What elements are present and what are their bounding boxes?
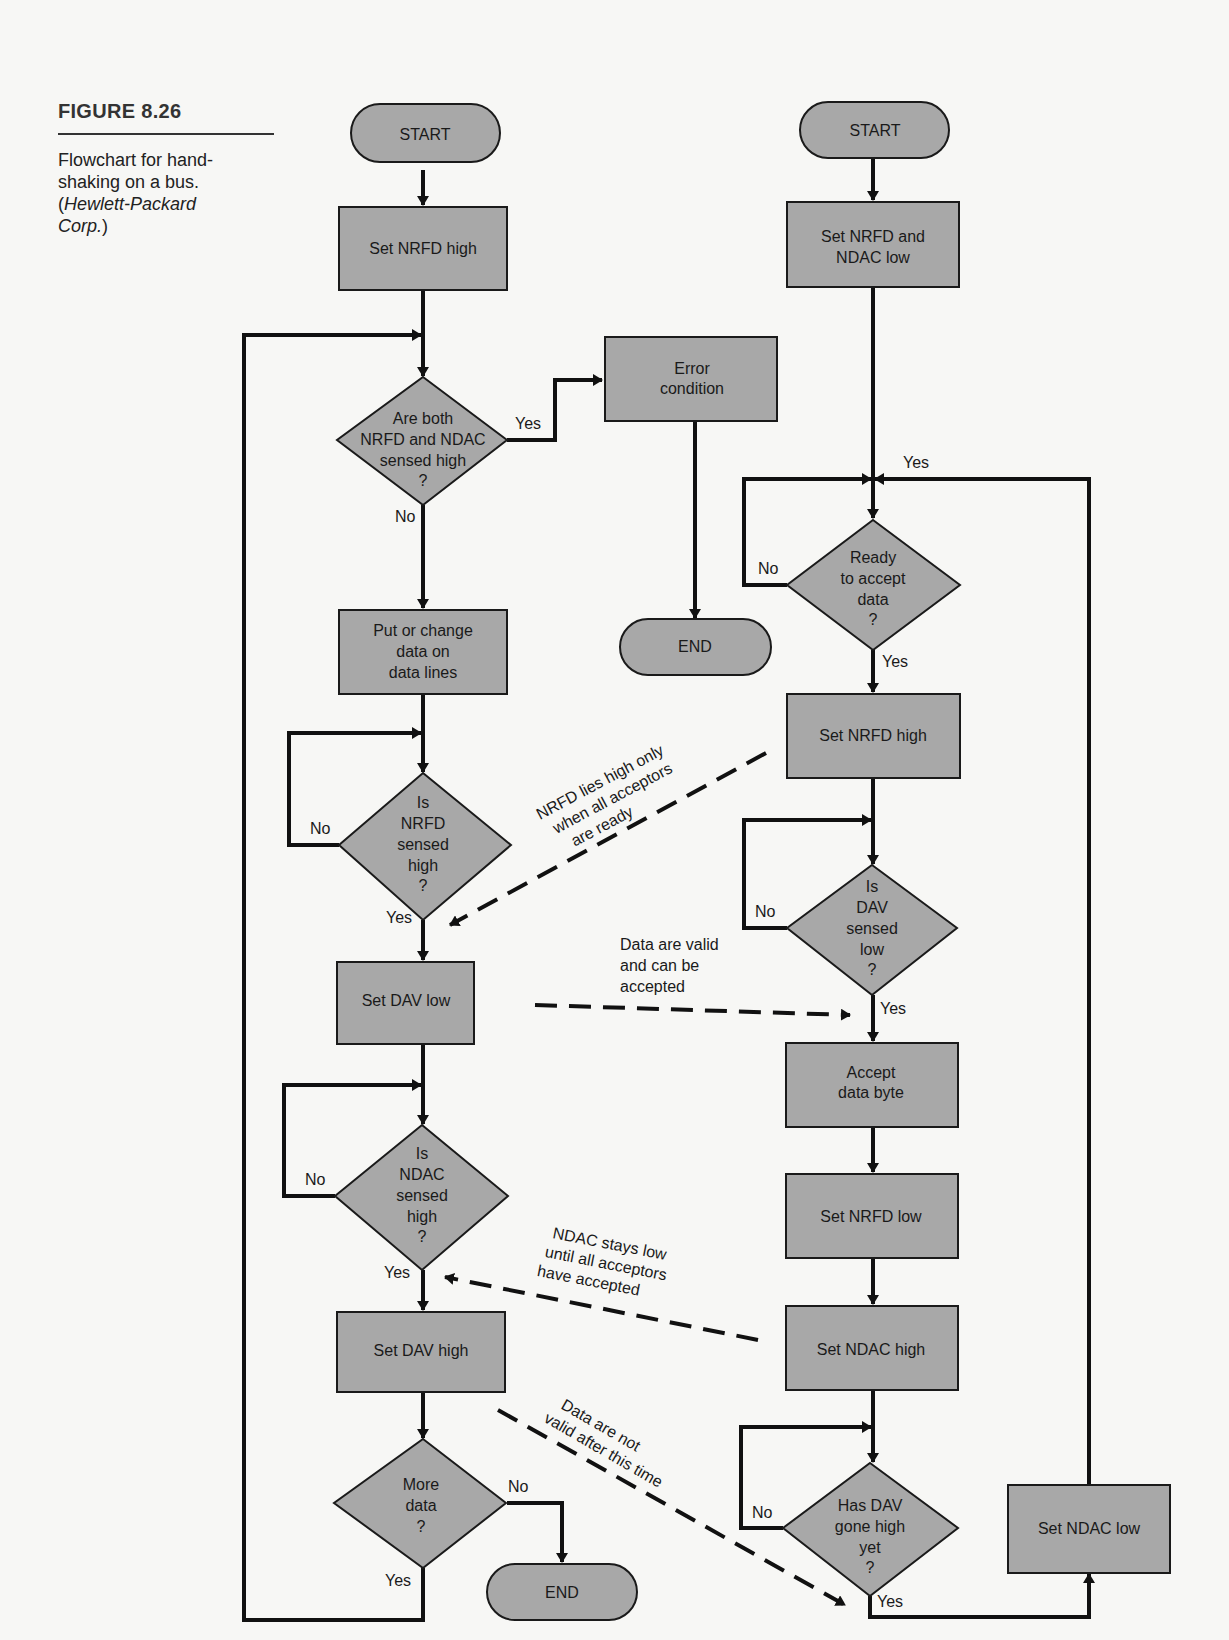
yes-label: Yes (515, 415, 541, 432)
listener-is-dav-low-decision: Is DAV sensed low ? (787, 865, 957, 995)
svg-text:data lines: data lines (389, 664, 458, 681)
svg-text:Set NDAC high: Set NDAC high (817, 1341, 926, 1358)
svg-text:low: low (860, 941, 884, 958)
svg-text:DAV: DAV (856, 899, 888, 916)
yes-label: Yes (903, 454, 929, 471)
note-ndac-low: NDAC stays low until all acceptors have … (536, 1223, 672, 1303)
svg-text:yet: yet (859, 1539, 881, 1556)
svg-text:gone high: gone high (835, 1518, 905, 1535)
svg-text:Has DAV: Has DAV (838, 1497, 903, 1514)
talker-is-nrfd-high-decision: Is NRFD sensed high ? (339, 773, 511, 920)
svg-text:Accept: Accept (847, 1064, 896, 1081)
svg-text:high: high (407, 1208, 437, 1225)
svg-text:Is: Is (417, 794, 429, 811)
yes-label: Yes (384, 1264, 410, 1281)
no-label: No (508, 1478, 529, 1495)
talker-set-dav-low: Set DAV low (337, 962, 474, 1044)
svg-text:NDAC low: NDAC low (836, 249, 910, 266)
talker-set-dav-high: Set DAV high (337, 1312, 505, 1392)
no-label: No (755, 903, 776, 920)
svg-text:high: high (408, 857, 438, 874)
svg-text:NRFD and NDAC: NRFD and NDAC (360, 431, 485, 448)
svg-text:More: More (403, 1476, 440, 1493)
talker-is-ndac-high-decision: Is NDAC sensed high ? (335, 1125, 508, 1270)
talker-end-node: END (487, 1564, 637, 1620)
svg-text:Set DAV low: Set DAV low (362, 992, 451, 1009)
no-label: No (395, 508, 416, 525)
talker-set-nrfd-high: Set NRFD high (339, 207, 507, 290)
svg-text:Ready: Ready (850, 549, 896, 566)
talker-more-data-decision: More data ? (334, 1439, 506, 1568)
yes-label: Yes (882, 653, 908, 670)
listener-set-ndac-low: Set NDAC low (1008, 1485, 1170, 1573)
svg-text:?: ? (419, 472, 428, 489)
error-condition-node: Error condition (605, 337, 777, 421)
svg-text:?: ? (869, 611, 878, 628)
svg-text:?: ? (418, 1228, 427, 1245)
listener-ready-decision: Ready to accept data ? (787, 520, 960, 650)
svg-text:END: END (545, 1584, 579, 1601)
svg-text:START: START (850, 122, 901, 139)
svg-text:?: ? (419, 877, 428, 894)
talker-check-both-decision: Are both NRFD and NDAC sensed high ? (337, 377, 507, 505)
svg-text:START: START (400, 126, 451, 143)
svg-text:sensed: sensed (846, 920, 898, 937)
svg-text:?: ? (417, 1518, 426, 1535)
svg-text:to accept: to accept (841, 570, 906, 587)
svg-text:and can be: and can be (620, 957, 699, 974)
no-label: No (310, 820, 331, 837)
yes-label: Yes (877, 1593, 903, 1610)
svg-text:Data are valid: Data are valid (620, 936, 719, 953)
listener-set-nrfd-ndac-low: Set NRFD and NDAC low (787, 202, 959, 287)
svg-text:sensed: sensed (396, 1187, 448, 1204)
yes-label: Yes (880, 1000, 906, 1017)
note-data-valid: Data are valid and can be accepted (620, 936, 719, 995)
svg-text:Set DAV high: Set DAV high (374, 1342, 469, 1359)
svg-text:Put or change: Put or change (373, 622, 473, 639)
svg-text:condition: condition (660, 380, 724, 397)
listener-connectors (741, 158, 1089, 1617)
listener-set-nrfd-high: Set NRFD high (787, 694, 960, 778)
svg-text:NRFD: NRFD (401, 815, 445, 832)
svg-text:Set NRFD high: Set NRFD high (369, 240, 477, 257)
handshake-flowchart: START Set NRFD high Are both NRFD and ND… (0, 0, 1229, 1640)
svg-text:Error: Error (674, 360, 710, 377)
svg-text:sensed: sensed (397, 836, 449, 853)
listener-accept-data: Accept data byte (786, 1043, 958, 1127)
no-label: No (752, 1504, 773, 1521)
error-end-node: END (620, 619, 771, 675)
svg-text:data byte: data byte (838, 1084, 904, 1101)
svg-text:?: ? (868, 961, 877, 978)
svg-text:END: END (678, 638, 712, 655)
no-label: No (305, 1171, 326, 1188)
svg-text:Set NDAC low: Set NDAC low (1038, 1520, 1141, 1537)
svg-text:Is: Is (416, 1145, 428, 1162)
svg-text:?: ? (866, 1559, 875, 1576)
no-label: No (758, 560, 779, 577)
yes-label: Yes (386, 909, 412, 926)
talker-put-data: Put or change data on data lines (339, 610, 507, 694)
listener-start-node: START (800, 102, 949, 158)
svg-text:sensed high: sensed high (380, 452, 466, 469)
svg-text:Are both: Are both (393, 410, 453, 427)
svg-text:NDAC: NDAC (399, 1166, 444, 1183)
talker-start-node: START (351, 104, 500, 162)
yes-label: Yes (385, 1572, 411, 1589)
listener-set-nrfd-low: Set NRFD low (786, 1174, 958, 1258)
svg-text:accepted: accepted (620, 978, 685, 995)
svg-text:Set NRFD high: Set NRFD high (819, 727, 927, 744)
listener-set-ndac-high: Set NDAC high (786, 1306, 958, 1390)
svg-text:data on: data on (396, 643, 449, 660)
svg-text:data: data (405, 1497, 436, 1514)
svg-text:Set NRFD and: Set NRFD and (821, 228, 925, 245)
svg-text:data: data (857, 591, 888, 608)
svg-text:Is: Is (866, 878, 878, 895)
note-data-not-valid: Data are not valid after this time (542, 1392, 676, 1491)
svg-text:Set NRFD low: Set NRFD low (820, 1208, 922, 1225)
listener-dav-gone-high-decision: Has DAV gone high yet ? (783, 1463, 958, 1596)
